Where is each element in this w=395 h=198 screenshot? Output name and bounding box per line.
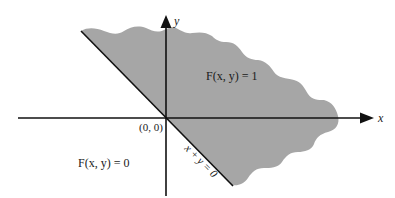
y-axis-label: y [173, 14, 180, 28]
x-axis-label: x [377, 111, 384, 125]
y-axis-arrow-icon [161, 15, 172, 28]
origin-label: (0, 0) [139, 121, 163, 134]
x-axis-arrow-icon [360, 113, 374, 124]
region-label-shaded: F(x, y) = 1 [206, 69, 257, 83]
region-label-unshaded: F(x, y) = 0 [78, 156, 129, 170]
region-diagram: x y (0, 0) F(x, y) = 1 F(x, y) = 0 x + y… [0, 0, 395, 198]
